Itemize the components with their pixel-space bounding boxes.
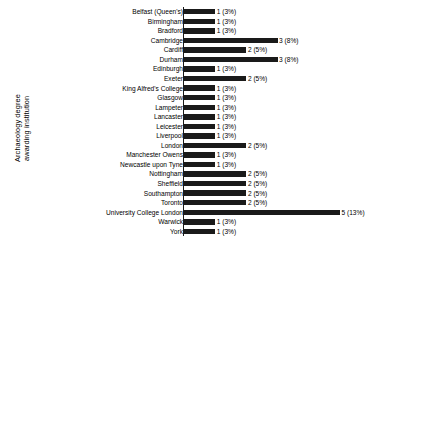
bar-segment <box>184 105 215 110</box>
bar-value-label: 1 (3%) <box>217 113 236 120</box>
category-label: Durham <box>5 56 183 63</box>
category-label: Leicester <box>5 123 183 130</box>
bar-row: Cardiff2 (5%) <box>0 45 429 55</box>
bar-segment <box>184 114 215 119</box>
category-label: Toronto <box>5 199 183 206</box>
bar-value-label: 1 (3%) <box>217 94 236 101</box>
bar-segment <box>184 76 246 81</box>
bar-row: Bradford1 (3%) <box>0 26 429 36</box>
bar-row: University College London5 (13%) <box>0 207 429 217</box>
category-label: King Alfred's College <box>5 85 183 92</box>
category-label: Sheffield <box>5 180 183 187</box>
bar-row: Nottingham2 (5%) <box>0 169 429 179</box>
bar-value-label: 1 (3%) <box>217 65 236 72</box>
chart-panel-science-education: Highest level of science education Age 1… <box>0 258 429 433</box>
bar-row: Toronto2 (5%) <box>0 198 429 208</box>
category-label: Edinburgh <box>5 65 183 72</box>
category-label: University College London <box>5 209 183 216</box>
category-label: Lancaster <box>5 113 183 120</box>
bar-row: Glasgow1 (3%) <box>0 93 429 103</box>
category-label: Birmingham <box>5 18 183 25</box>
bar-row: Southampton2 (5%) <box>0 188 429 198</box>
bar-segment <box>184 66 215 71</box>
bar-row: Sheffield2 (5%) <box>0 179 429 189</box>
bar-value-label: 1 (3%) <box>217 85 236 92</box>
bar-segment <box>184 9 215 14</box>
bar-segment <box>184 200 246 205</box>
category-label: Cambridge <box>5 37 183 44</box>
bar-row: London2 (5%) <box>0 141 429 151</box>
bar-value-label: 2 (5%) <box>248 75 267 82</box>
category-label: Lampeter <box>5 104 183 111</box>
bar-value-label: 2 (5%) <box>248 190 267 197</box>
bar-value-label: 2 (5%) <box>248 46 267 53</box>
bar-segment <box>184 38 278 43</box>
bar-row: King Alfred's College1 (3%) <box>0 83 429 93</box>
bar-value-label: 5 (13%) <box>342 209 365 216</box>
bar-row: Manchester Owens1 (3%) <box>0 150 429 160</box>
bar-value-label: 2 (5%) <box>248 142 267 149</box>
bar-value-label: 1 (3%) <box>217 228 236 235</box>
bar-value-label: 1 (3%) <box>217 132 236 139</box>
chart-panel-archaeology-institution: Archaeology degree awarding institution … <box>0 0 429 245</box>
bar-row: Newcastle upon Tyne1 (3%) <box>0 160 429 170</box>
bar-row: Cambridge3 (8%) <box>0 36 429 46</box>
category-label: Manchester Owens <box>5 151 183 158</box>
bar-value-label: 1 (3%) <box>217 8 236 15</box>
category-label: Warwick <box>5 218 183 225</box>
bar-value-label: 1 (3%) <box>217 18 236 25</box>
bar-segment <box>184 95 215 100</box>
category-label: Liverpool <box>5 132 183 139</box>
bar-segment <box>184 229 215 234</box>
category-label: Nottingham <box>5 170 183 177</box>
figure-two-bar-charts: Archaeology degree awarding institution … <box>0 0 429 441</box>
bar-segment <box>184 124 215 129</box>
category-label: London <box>5 142 183 149</box>
bar-row: Lampeter1 (3%) <box>0 102 429 112</box>
bar-value-label: 1 (3%) <box>217 218 236 225</box>
bar-value-label: 1 (3%) <box>217 123 236 130</box>
bar-row: Leicester1 (3%) <box>0 122 429 132</box>
bar-row: Durham3 (8%) <box>0 55 429 65</box>
bar-segment <box>184 210 340 215</box>
bar-segment <box>184 181 246 186</box>
bar-value-label: 1 (3%) <box>217 151 236 158</box>
bar-segment <box>184 152 215 157</box>
bar-row: York1 (3%) <box>0 227 429 237</box>
bar-row: Birmingham1 (3%) <box>0 17 429 27</box>
category-label: Cardiff <box>5 46 183 53</box>
category-label: Exeter <box>5 75 183 82</box>
bar-segment <box>184 57 278 62</box>
category-label: York <box>5 228 183 235</box>
bar-value-label: 2 (5%) <box>248 170 267 177</box>
category-label: Southampton <box>5 190 183 197</box>
bar-segment <box>184 85 215 90</box>
bar-segment <box>184 28 215 33</box>
bar-rows-archaeology-institution: Belfast (Queen's)1 (3%)Birmingham1 (3%)B… <box>0 7 429 236</box>
bar-row: Warwick1 (3%) <box>0 217 429 227</box>
bar-value-label: 1 (3%) <box>217 104 236 111</box>
category-label: Newcastle upon Tyne <box>5 161 183 168</box>
bar-segment <box>184 162 215 167</box>
bar-row: Exeter2 (5%) <box>0 74 429 84</box>
bar-segment <box>184 133 215 138</box>
bar-row: Lancaster1 (3%) <box>0 112 429 122</box>
bar-segment <box>184 47 246 52</box>
bar-segment <box>184 143 246 148</box>
bar-segment <box>184 219 215 224</box>
bar-value-label: 2 (5%) <box>248 199 267 206</box>
bar-segment <box>184 190 246 195</box>
category-label: Belfast (Queen's) <box>5 8 183 15</box>
bar-segment <box>184 19 215 24</box>
category-label: Bradford <box>5 27 183 34</box>
bar-value-label: 3 (8%) <box>279 56 298 63</box>
bar-value-label: 1 (3%) <box>217 27 236 34</box>
category-label: Glasgow <box>5 94 183 101</box>
bar-row: Edinburgh1 (3%) <box>0 64 429 74</box>
bar-value-label: 2 (5%) <box>248 180 267 187</box>
bar-value-label: 1 (3%) <box>217 161 236 168</box>
bar-row: Liverpool1 (3%) <box>0 131 429 141</box>
bar-segment <box>184 171 246 176</box>
bar-value-label: 3 (8%) <box>279 37 298 44</box>
bar-row: Belfast (Queen's)1 (3%) <box>0 7 429 17</box>
